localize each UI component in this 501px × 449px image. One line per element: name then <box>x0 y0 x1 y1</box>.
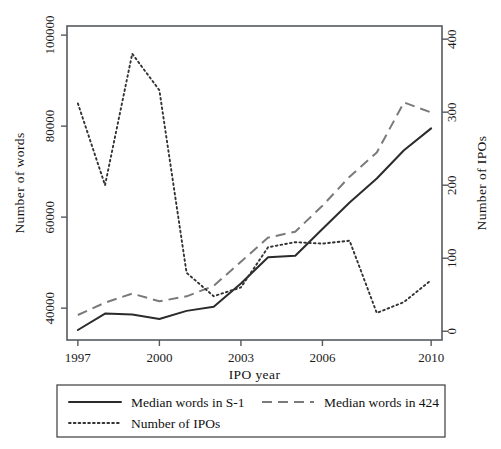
y2-tick-label: 300 <box>444 102 459 122</box>
y-axis-left: 400006000080000100000 <box>42 16 67 325</box>
series-line-dotted <box>78 54 431 313</box>
legend-label: Median words in S-1 <box>131 395 245 410</box>
y2-tick-label: 200 <box>444 175 459 195</box>
x-tick-label: 2010 <box>418 350 444 365</box>
chart-figure: 19972000200320062010IPO year400006000080… <box>0 0 501 449</box>
legend: Median words in S-1Median words in 424Nu… <box>57 385 445 437</box>
y-tick-label: 100000 <box>42 16 57 55</box>
legend-label: Number of IPOs <box>131 416 220 431</box>
plot-frame <box>67 26 442 340</box>
y-tick-label: 80000 <box>42 110 57 142</box>
legend-box <box>57 385 445 437</box>
x-axis-title: IPO year <box>229 367 281 382</box>
legend-label: Median words in 424 <box>324 395 439 410</box>
x-tick-label: 2003 <box>228 350 254 365</box>
y2-tick-label: 100 <box>444 248 459 268</box>
y-axis-right: 0100200300400 <box>442 29 459 334</box>
series-group <box>78 54 431 330</box>
y2-tick-label: 0 <box>444 328 459 335</box>
series-line-solid <box>78 128 431 330</box>
y-tick-label: 60000 <box>42 201 57 234</box>
chart-canvas: 19972000200320062010IPO year400006000080… <box>0 0 501 449</box>
y-axis-title-left: Number of words <box>12 132 27 233</box>
x-tick-label: 1997 <box>65 350 92 365</box>
y-axis-title-right: Number of IPOs <box>474 136 489 231</box>
y2-tick-label: 400 <box>444 29 459 49</box>
series-line-dashed <box>78 102 431 315</box>
y-tick-label: 40000 <box>42 292 57 325</box>
x-tick-label: 2000 <box>146 350 172 365</box>
x-axis: 19972000200320062010 <box>65 340 444 365</box>
x-tick-label: 2006 <box>309 350 336 365</box>
